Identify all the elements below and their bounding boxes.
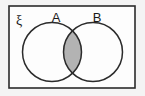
universal-set-symbol: ξ: [16, 13, 22, 28]
set-b-label: B: [93, 10, 102, 25]
set-a-label: A: [52, 10, 61, 25]
venn-diagram-canvas: ξ A B: [0, 0, 145, 96]
venn-diagram-figure: ξ A B: [0, 0, 145, 96]
